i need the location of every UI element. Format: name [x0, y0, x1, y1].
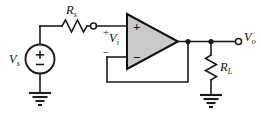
- operational-amplifier: + −: [107, 14, 211, 69]
- source-circle: [26, 45, 55, 74]
- output-branch: [208, 39, 241, 45]
- label-resistor-rl: RL: [219, 60, 233, 76]
- voltage-source-vs: [26, 26, 55, 93]
- terminal-output: [236, 39, 242, 45]
- node-dot-feedback-tap: [185, 39, 190, 44]
- resistor-rs-zigzag: [62, 20, 87, 32]
- resistor-rl-zigzag: [206, 55, 217, 80]
- terminal-input: [91, 23, 97, 29]
- opamp-inverting-sign: −: [133, 50, 140, 65]
- label-source-vs: Vs: [9, 52, 20, 68]
- label-resistor-rs: Rs: [65, 3, 77, 19]
- circuit-diagram: Vs Rs + Vi − + −: [0, 0, 261, 118]
- label-output-voltage-vo: Vo: [244, 30, 256, 46]
- label-input-voltage-vi: Vi: [109, 31, 119, 47]
- resistor-rl: [206, 42, 217, 96]
- opamp-noninverting-sign: +: [133, 19, 140, 34]
- ground-load: [200, 95, 222, 107]
- input-voltage-annotation: + Vi −: [103, 27, 119, 58]
- ground-source: [29, 93, 51, 105]
